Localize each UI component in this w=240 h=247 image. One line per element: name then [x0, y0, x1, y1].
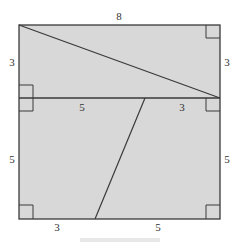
outer-rectangle	[19, 25, 220, 219]
label-bottom-left-length: 3	[54, 221, 60, 233]
caption-placeholder	[80, 238, 160, 242]
label-top-length: 8	[116, 10, 122, 22]
label-right-upper-length: 3	[224, 56, 230, 68]
label-bottom-right-length: 5	[155, 221, 161, 233]
geometry-figure: 8 3 3 5 3 5 5 3 5	[0, 0, 240, 247]
label-right-lower-length: 5	[224, 153, 230, 165]
label-middle-right-length: 3	[179, 101, 185, 113]
label-left-upper-length: 3	[9, 56, 15, 68]
label-middle-left-length: 5	[79, 101, 85, 113]
label-left-lower-length: 5	[9, 153, 15, 165]
